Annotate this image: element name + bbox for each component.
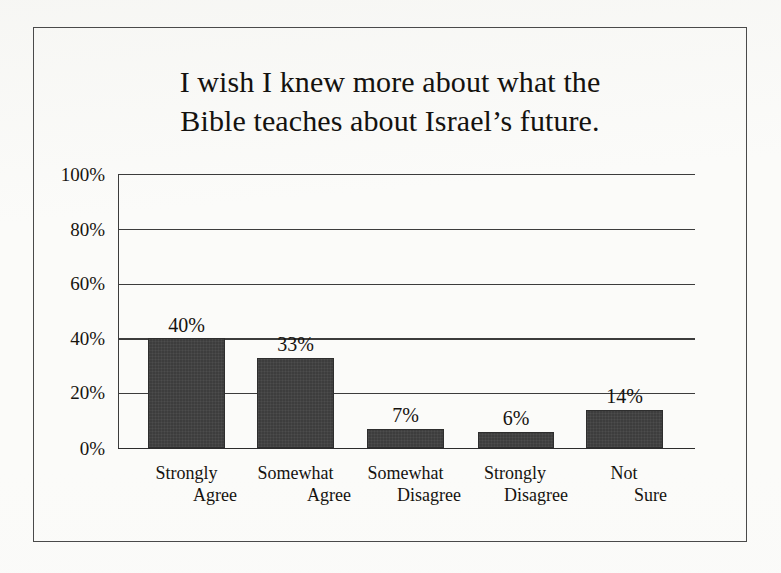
gridline-80 [118, 229, 695, 230]
category-label-strongly-agree-line-1: Strongly [136, 462, 237, 484]
category-label-not-sure-line-2: Sure [581, 484, 667, 506]
category-label-strongly-agree-line-2: Agree [136, 484, 237, 506]
category-label-somewhat-agree-line-2: Agree [240, 484, 351, 506]
bar-somewhat-disagree[interactable] [367, 429, 444, 448]
y-tick-label-20: 20% [35, 383, 105, 402]
category-label-somewhat-disagree-line-1: Somewhat [350, 462, 461, 484]
category-label-strongly-agree: Strongly Agree [136, 462, 237, 506]
chart-title-line-1: I wish I knew more about what the [60, 62, 720, 101]
chart-page: I wish I knew more about what the Bible … [0, 0, 781, 573]
bar-value-somewhat-disagree: 7% [367, 405, 444, 425]
bar-value-somewhat-agree: 33% [257, 334, 334, 354]
category-label-strongly-disagree: Strongly Disagree [462, 462, 568, 506]
chart-title-line-2: Bible teaches about Israel’s future. [60, 101, 720, 140]
y-tick-label-0: 0% [35, 439, 105, 458]
category-label-somewhat-disagree-line-2: Disagree [350, 484, 461, 506]
bar-strongly-agree[interactable] [148, 338, 225, 448]
bar-strongly-disagree[interactable] [478, 432, 554, 448]
category-label-somewhat-agree: Somewhat Agree [240, 462, 351, 506]
gridline-60 [118, 284, 695, 285]
y-tick-label-100: 100% [35, 165, 105, 184]
category-label-strongly-disagree-line-2: Disagree [462, 484, 568, 506]
bar-value-not-sure: 14% [586, 386, 663, 406]
y-tick-label-60: 60% [35, 274, 105, 293]
category-label-somewhat-disagree: Somewhat Disagree [350, 462, 461, 506]
category-label-not-sure-line-1: Not [581, 462, 667, 484]
bar-not-sure[interactable] [586, 410, 663, 448]
bar-value-strongly-disagree: 6% [478, 408, 554, 428]
bar-somewhat-agree[interactable] [257, 358, 334, 448]
y-tick-label-80: 80% [35, 220, 105, 239]
bar-value-strongly-agree: 40% [148, 315, 225, 335]
y-tick-label-40: 40% [35, 329, 105, 348]
category-label-strongly-disagree-line-1: Strongly [462, 462, 568, 484]
category-label-not-sure: Not Sure [581, 462, 667, 506]
chart-title: I wish I knew more about what the Bible … [60, 62, 720, 140]
gridline-100 [118, 174, 695, 175]
category-label-somewhat-agree-line-1: Somewhat [240, 462, 351, 484]
